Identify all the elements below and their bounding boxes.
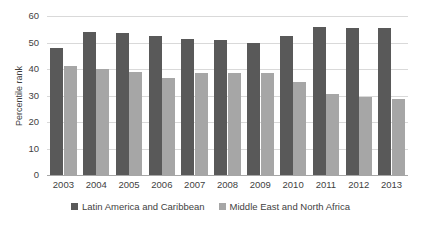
x-tick-label-2003: 2003: [47, 178, 80, 192]
plot-area: [47, 16, 408, 175]
x-tick-label-2005: 2005: [113, 178, 146, 192]
y-tick-label-30: 30: [5, 91, 39, 101]
y-tick-label-60: 60: [5, 11, 39, 21]
bar: [359, 97, 372, 175]
bar-group: [342, 16, 375, 175]
x-tick-label-2013: 2013: [375, 178, 408, 192]
legend-swatch-icon: [219, 203, 226, 210]
bar: [50, 48, 63, 175]
bar: [247, 43, 260, 176]
bar: [149, 36, 162, 175]
bar: [228, 73, 241, 175]
bar: [313, 27, 326, 175]
bar: [116, 33, 129, 175]
bar: [326, 94, 339, 175]
bars-layer: [47, 16, 408, 175]
bar: [162, 78, 175, 175]
bar: [195, 73, 208, 175]
x-tick-label-2010: 2010: [277, 178, 310, 192]
x-tick-label-2006: 2006: [145, 178, 178, 192]
bar: [280, 36, 293, 175]
bar: [83, 32, 96, 175]
x-tick-label-2011: 2011: [310, 178, 343, 192]
x-tick-label-2004: 2004: [80, 178, 113, 192]
bar-group: [145, 16, 178, 175]
bar: [293, 82, 306, 175]
bar-group: [211, 16, 244, 175]
gridline-0: [47, 175, 408, 176]
legend-label: Middle East and North Africa: [230, 202, 350, 212]
y-tick-label-20: 20: [5, 117, 39, 127]
bar: [181, 39, 194, 175]
y-tick-label-40: 40: [5, 64, 39, 74]
bar-group: [310, 16, 343, 175]
x-tick-label-2007: 2007: [178, 178, 211, 192]
legend-entry[interactable]: Latin America and Caribbean: [71, 202, 205, 212]
bar-group: [244, 16, 277, 175]
bar-group: [80, 16, 113, 175]
y-axis-tick-labels: 0102030405060: [0, 16, 43, 175]
y-tick-label-50: 50: [5, 38, 39, 48]
x-tick-label-2008: 2008: [211, 178, 244, 192]
x-axis-tick-labels: 2003200420052006200720082009201020112012…: [47, 178, 408, 194]
x-tick-label-2009: 2009: [244, 178, 277, 192]
bar: [129, 72, 142, 175]
x-tick-label-2012: 2012: [342, 178, 375, 192]
bar: [64, 66, 77, 175]
bar-chart: Percentile rank 0102030405060 2003200420…: [0, 0, 421, 233]
bar: [346, 28, 359, 175]
bar-group: [277, 16, 310, 175]
bar-group: [47, 16, 80, 175]
bar-group: [178, 16, 211, 175]
bar-group: [113, 16, 146, 175]
chart-legend: Latin America and CaribbeanMiddle East a…: [0, 202, 421, 212]
y-tick-label-0: 0: [5, 170, 39, 180]
bar: [96, 69, 109, 175]
bar: [392, 99, 405, 175]
legend-label: Latin America and Caribbean: [82, 202, 205, 212]
legend-entry[interactable]: Middle East and North Africa: [219, 202, 350, 212]
bar: [214, 40, 227, 175]
y-tick-label-10: 10: [5, 144, 39, 154]
legend-swatch-icon: [71, 203, 78, 210]
bar: [261, 73, 274, 175]
bar: [378, 28, 391, 175]
bar-group: [375, 16, 408, 175]
